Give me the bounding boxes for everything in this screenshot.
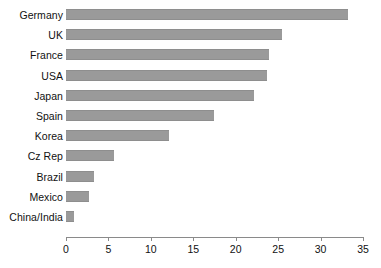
x-axis-tick (363, 237, 364, 241)
x-axis-tick (236, 237, 237, 241)
x-axis-tick-label: 15 (173, 243, 213, 255)
category-label: Brazil (2, 167, 66, 187)
bar (66, 110, 214, 121)
bar-row: Germany (0, 5, 381, 25)
category-label: Germany (2, 5, 66, 25)
x-axis-tick-label: 10 (131, 243, 171, 255)
category-label: Mexico (2, 187, 66, 207)
bar-row: Korea (0, 126, 381, 146)
x-axis-tick (66, 237, 67, 241)
x-axis-tick-label: 20 (216, 243, 256, 255)
x-axis-tick-label: 25 (258, 243, 298, 255)
plot-area: GermanyUKFranceUSAJapanSpainKoreaCz RepB… (0, 0, 381, 268)
bar (66, 90, 254, 101)
category-label: Korea (2, 126, 66, 146)
bar (66, 70, 267, 81)
x-axis-line (66, 237, 363, 238)
bar-row: France (0, 45, 381, 65)
category-label: Spain (2, 106, 66, 126)
bar-row: Brazil (0, 167, 381, 187)
x-axis-tick (108, 237, 109, 241)
bar (66, 171, 94, 182)
x-axis-tick (278, 237, 279, 241)
category-label: China/India (2, 207, 66, 227)
bar-row: Spain (0, 106, 381, 126)
bar-row: Mexico (0, 187, 381, 207)
bar (66, 29, 282, 40)
bar-row: USA (0, 66, 381, 86)
category-label: USA (2, 66, 66, 86)
bar (66, 191, 89, 202)
bar-chart: GermanyUKFranceUSAJapanSpainKoreaCz RepB… (0, 0, 381, 268)
category-label: Japan (2, 86, 66, 106)
bar-row: Cz Rep (0, 146, 381, 166)
x-axis-tick (151, 237, 152, 241)
x-axis-tick-label: 30 (301, 243, 341, 255)
x-axis-tick (321, 237, 322, 241)
x-axis-tick-label: 35 (343, 243, 381, 255)
category-label: Cz Rep (2, 146, 66, 166)
bar-row: China/India (0, 207, 381, 227)
x-axis-tick (193, 237, 194, 241)
bar (66, 211, 74, 222)
bar-row: UK (0, 25, 381, 45)
bar-row: Japan (0, 86, 381, 106)
bar (66, 49, 269, 60)
category-label: France (2, 45, 66, 65)
category-label: UK (2, 25, 66, 45)
bar (66, 150, 114, 161)
x-axis-tick-label: 0 (46, 243, 86, 255)
bar (66, 130, 169, 141)
bar (66, 9, 348, 20)
x-axis-tick-label: 5 (88, 243, 128, 255)
